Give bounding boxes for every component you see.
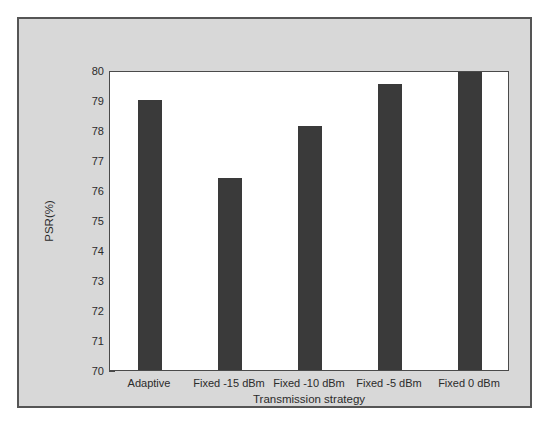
y-axis-tick-label: 77 xyxy=(92,156,104,167)
y-axis-tick-label: 74 xyxy=(92,246,104,257)
chart-screenshot: PSR(%) 7071727374757677787980 AdaptiveFi… xyxy=(0,0,550,433)
bar xyxy=(378,84,402,371)
y-axis-tick-label: 75 xyxy=(92,216,104,227)
x-axis-tick-label: Fixed -5 dBm xyxy=(356,375,421,391)
x-axis-tick-label: Fixed -15 dBm xyxy=(193,375,265,391)
bar xyxy=(138,100,162,370)
figure-frame: PSR(%) 7071727374757677787980 AdaptiveFi… xyxy=(17,17,532,408)
y-axis-tick-label: 71 xyxy=(92,336,104,347)
x-axis-tick-labels: AdaptiveFixed -15 dBmFixed -10 dBmFixed … xyxy=(109,375,509,391)
bar xyxy=(298,126,322,371)
y-axis-tick-label: 73 xyxy=(92,276,104,287)
plot-area xyxy=(109,71,509,371)
x-axis-tick-label: Fixed 0 dBm xyxy=(438,375,500,391)
y-axis-tick-label: 80 xyxy=(92,66,104,77)
y-axis-tick-label: 72 xyxy=(92,306,104,317)
y-axis-tick-mark xyxy=(109,371,115,372)
y-axis-tick-label: 78 xyxy=(92,126,104,137)
y-axis-title: PSR(%) xyxy=(41,71,57,371)
y-axis-tick-label: 70 xyxy=(92,366,104,377)
bar xyxy=(218,178,242,370)
x-axis-tick-label: Fixed -10 dBm xyxy=(273,375,345,391)
y-axis-tick-labels: 7071727374757677787980 xyxy=(79,71,104,371)
y-axis-tick-label: 76 xyxy=(92,186,104,197)
y-axis-tick-label: 79 xyxy=(92,96,104,107)
bar xyxy=(458,72,482,371)
x-axis-title: Transmission strategy xyxy=(109,392,509,407)
bar-series xyxy=(110,72,508,370)
x-axis-tick-label: Adaptive xyxy=(128,375,171,391)
